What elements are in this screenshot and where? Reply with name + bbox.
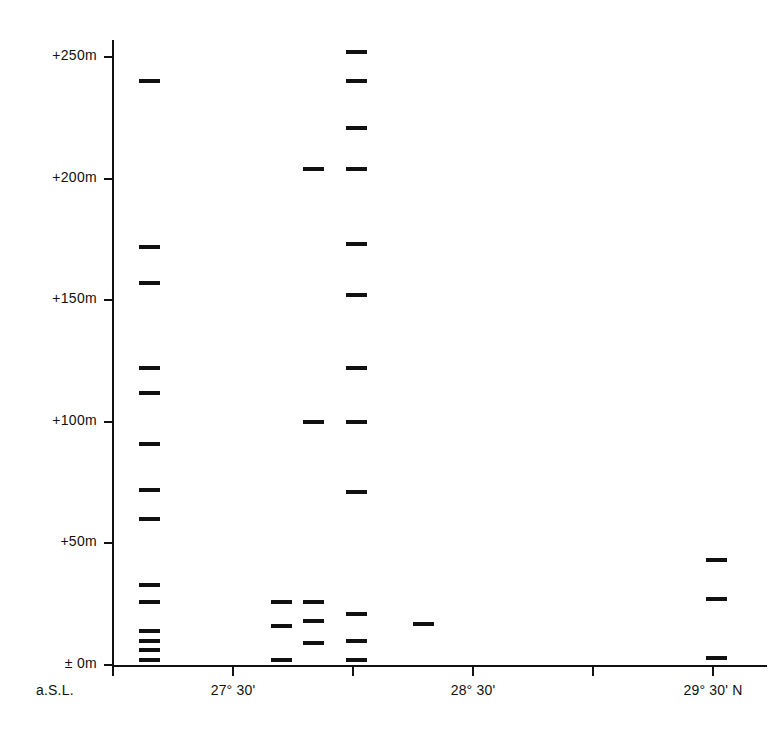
data-mark [139, 517, 160, 521]
y-axis-tick: ± 0m [0, 664, 113, 666]
y-axis-tick: +100m [0, 421, 113, 423]
y-axis-tick-label: +150m [17, 290, 97, 306]
y-axis-tick-mark [104, 421, 113, 423]
data-mark [303, 619, 324, 623]
x-axis-tick-mark [712, 667, 714, 676]
x-axis-tick-label: 29° 30' N [683, 682, 742, 698]
y-axis-tick-mark [104, 299, 113, 301]
data-mark [346, 50, 367, 54]
data-mark [271, 658, 292, 662]
x-axis-tick-mark [592, 667, 594, 676]
y-axis-tick-label: +50m [17, 533, 97, 549]
x-axis-tick-mark [112, 667, 114, 676]
plot-area [113, 40, 761, 665]
y-axis-tick-label: +100m [17, 412, 97, 428]
data-mark [139, 600, 160, 604]
data-mark [139, 366, 160, 370]
chart-root: ± 0m+50m+100m+150m+200m+250m 27° 30'28° … [0, 0, 774, 735]
y-axis-tick-mark [104, 178, 113, 180]
data-mark [346, 126, 367, 130]
data-mark [706, 656, 727, 660]
x-axis-tick-label: 28° 30' [451, 682, 496, 698]
data-mark [346, 293, 367, 297]
y-axis-tick-label: +250m [17, 47, 97, 63]
data-mark [271, 624, 292, 628]
axis-origin-label: a.S.L. [36, 682, 74, 698]
data-mark [139, 658, 160, 662]
x-axis-tick-mark [352, 667, 354, 676]
data-mark [346, 612, 367, 616]
data-mark [346, 167, 367, 171]
data-mark [706, 597, 727, 601]
y-axis-tick-mark [104, 56, 113, 58]
y-axis-tick-label: ± 0m [17, 655, 97, 671]
data-mark [346, 79, 367, 83]
x-axis-tick-mark [472, 667, 474, 676]
x-axis-line [112, 665, 767, 667]
data-mark [346, 658, 367, 662]
data-mark [346, 420, 367, 424]
data-mark [139, 629, 160, 633]
data-mark [706, 558, 727, 562]
data-mark [139, 648, 160, 652]
y-axis-tick: +200m [0, 178, 113, 180]
y-axis-tick-mark [104, 542, 113, 544]
data-mark [413, 622, 434, 626]
data-mark [139, 583, 160, 587]
data-mark [303, 641, 324, 645]
data-mark [139, 442, 160, 446]
data-mark [139, 488, 160, 492]
data-mark [346, 639, 367, 643]
data-mark [271, 600, 292, 604]
data-mark [346, 366, 367, 370]
data-mark [139, 639, 160, 643]
data-mark [303, 600, 324, 604]
y-axis-tick-mark [104, 664, 113, 666]
data-mark [346, 242, 367, 246]
data-mark [139, 281, 160, 285]
data-mark [303, 167, 324, 171]
x-axis-tick-label: 27° 30' [211, 682, 256, 698]
y-axis-tick-label: +200m [17, 169, 97, 185]
data-mark [346, 490, 367, 494]
data-mark [303, 420, 324, 424]
y-axis-tick: +250m [0, 56, 113, 58]
y-axis-tick: +50m [0, 542, 113, 544]
data-mark [139, 79, 160, 83]
x-axis-tick-mark [232, 667, 234, 676]
y-axis-tick: +150m [0, 299, 113, 301]
data-mark [139, 391, 160, 395]
data-mark [139, 245, 160, 249]
